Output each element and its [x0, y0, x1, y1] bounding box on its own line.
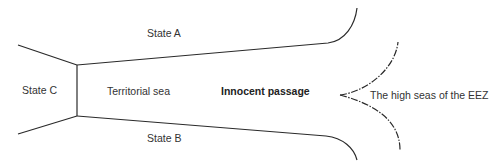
- state-c-label: State C: [22, 84, 57, 96]
- territorial-sea-label: Territorial sea: [107, 85, 170, 97]
- state-c-upper-boundary: [18, 45, 77, 65]
- state-b-label: State B: [147, 132, 181, 144]
- state-a-label: State A: [147, 27, 181, 39]
- high-seas-boundary-lower: [340, 95, 400, 150]
- state-b-coastline: [77, 116, 357, 160]
- state-a-coastline: [77, 8, 357, 65]
- high-seas-label: The high seas of the EEZ: [370, 89, 488, 101]
- diagram-canvas: [0, 0, 500, 168]
- high-seas-boundary-upper: [340, 42, 398, 95]
- innocent-passage-label: Innocent passage: [221, 85, 310, 97]
- state-c-lower-boundary: [18, 116, 77, 134]
